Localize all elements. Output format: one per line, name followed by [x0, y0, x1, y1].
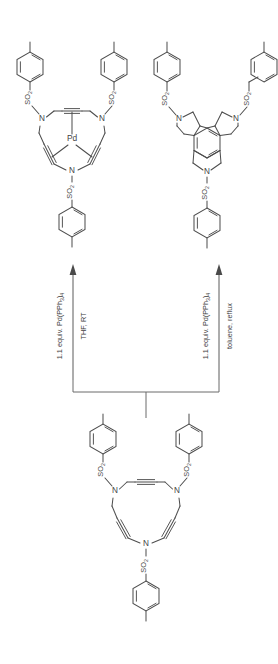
- tosyl-group: SO2: [101, 42, 127, 114]
- arrow-right-reagent-label: 1.1 equiv. Pd(PPh3)4: [201, 293, 211, 360]
- atom-label-palladium: Pd: [67, 133, 78, 143]
- tosyl-group: SO2: [176, 414, 202, 486]
- tosyl-group: SO2: [240, 42, 277, 115]
- tosyl-group: SO2: [154, 42, 180, 115]
- arrow-left-reagent-label: 1.1 equiv. Pd(PPh3)4: [55, 293, 65, 360]
- tosyl-group: SO2: [90, 414, 116, 486]
- atom-label-nitrogen: N: [112, 486, 118, 495]
- reaction-arrow-right: 1.1 equiv. Pd(PPh3)4 toluene, reflux: [201, 264, 234, 380]
- sulfonyl-label: SO2: [160, 92, 170, 106]
- structure-starting-material-macrocycle: N N N SO2 SO: [90, 414, 202, 621]
- p-tolyl-group: [101, 42, 127, 82]
- atom-label-nitrogen: N: [174, 486, 180, 495]
- sulfonyl-label: SO2: [139, 559, 149, 573]
- p-tolyl-group: [194, 208, 220, 248]
- reaction-arrow-left: 1.1 equiv. Pd(PPh3)4 THF, RT: [55, 264, 88, 380]
- reaction-scheme: N N N Pd: [0, 0, 278, 664]
- p-tolyl-group: [59, 207, 85, 247]
- arrow-right-conditions-label: toluene, reflux: [225, 303, 234, 349]
- structure-product-left-pd-complex: N N N Pd: [17, 42, 127, 247]
- p-tolyl-group: [176, 414, 202, 454]
- atom-label-nitrogen: N: [39, 114, 45, 123]
- atom-label-nitrogen: N: [69, 166, 75, 175]
- sulfonyl-label: SO2: [242, 92, 252, 106]
- p-tolyl-group: [90, 414, 116, 454]
- atom-label-nitrogen: N: [99, 114, 105, 123]
- atom-label-nitrogen: N: [143, 539, 149, 548]
- p-tolyl-group: [154, 42, 180, 82]
- sulfonyl-label: SO2: [107, 91, 117, 105]
- reaction-branch-connector: [73, 380, 219, 418]
- arrow-left-conditions-label: THF, RT: [79, 312, 88, 340]
- atom-label-nitrogen: N: [176, 114, 182, 123]
- structure-product-right-fused-arene: N N N SO2: [154, 42, 277, 248]
- tosyl-group: SO2: [17, 42, 43, 114]
- p-tolyl-group: [133, 581, 159, 621]
- tosyl-group: SO2: [59, 176, 85, 247]
- sulfonyl-label: SO2: [182, 463, 192, 477]
- sulfonyl-label: SO2: [200, 186, 210, 200]
- sulfonyl-label: SO2: [23, 91, 33, 105]
- sulfonyl-label: SO2: [65, 185, 75, 199]
- atom-label-nitrogen: N: [204, 167, 210, 176]
- sulfonyl-label: SO2: [96, 463, 106, 477]
- p-tolyl-group: [17, 42, 43, 82]
- p-tolyl-group-clipped: [251, 42, 277, 82]
- atom-label-nitrogen: N: [233, 114, 239, 123]
- tosyl-group: SO2: [194, 177, 220, 248]
- tosyl-group: SO2: [133, 549, 159, 621]
